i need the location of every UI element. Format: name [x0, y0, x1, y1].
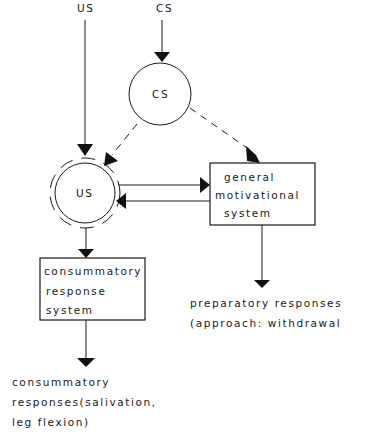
cs-to-gms-dashed-arrow — [190, 108, 260, 163]
cs-input-arrow — [154, 20, 170, 62]
us-node-label: US — [76, 187, 94, 199]
crs-line-2: response — [46, 285, 107, 297]
cs-node-label: CS — [152, 88, 169, 100]
gms-to-preparatory-arrow — [254, 225, 270, 288]
crs-line-3: system — [46, 304, 94, 316]
us-to-crs-arrow — [78, 228, 94, 258]
us-to-gms-arrow — [118, 177, 210, 193]
consummatory-responses-line-1: consummatory — [12, 376, 110, 388]
preparatory-responses-detail: (approach: withdrawal — [190, 317, 341, 329]
cs-node: CS — [129, 63, 191, 125]
gms-line-3: system — [224, 207, 272, 219]
conditioning-diagram: US CS CS US general — [0, 0, 366, 440]
crs-line-1: consummatory — [44, 265, 142, 277]
cs-input-label: CS — [156, 2, 173, 14]
preparatory-responses-label: preparatory responses — [190, 297, 342, 309]
consummatory-responses-line-2: responses(salivation, — [12, 396, 157, 408]
cs-to-us-dashed-arrow — [104, 124, 137, 166]
gms-line-1: general — [224, 171, 275, 183]
us-input-arrow — [77, 20, 93, 156]
general-motivational-system-box: general motivational system — [210, 163, 315, 225]
gms-line-2: motivational — [215, 189, 300, 201]
us-input-label: US — [77, 2, 95, 14]
crs-to-consummatory-arrow — [77, 320, 95, 367]
consummatory-responses-line-3: leg flexion) — [12, 416, 90, 428]
us-node: US — [50, 158, 120, 228]
gms-to-us-arrow — [116, 193, 210, 209]
consummatory-response-system-box: consummatory response system — [40, 258, 145, 320]
